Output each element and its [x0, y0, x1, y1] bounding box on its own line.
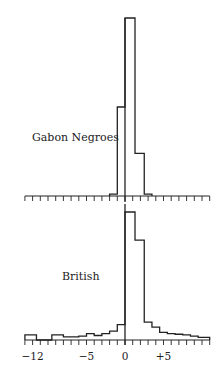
x-tick-label: 0 [122, 350, 129, 362]
x-tick-labels: −12−50+5 [22, 350, 172, 362]
x-tick-label: +5 [156, 350, 171, 362]
gabon-negroes-label: Gabon Negroes [32, 131, 119, 144]
x-tick-label: −12 [22, 350, 44, 362]
histogram-outline [110, 18, 152, 196]
histogram-chart: Gabon Negroes British −12−50+5 [0, 0, 220, 381]
x-tick-label: −5 [79, 350, 94, 362]
british-panel [25, 204, 210, 345]
gabon-negroes-panel [110, 18, 152, 202]
top-x-axis [25, 196, 210, 201]
bottom-x-axis [25, 340, 210, 345]
histogram-outline [25, 212, 210, 340]
british-label: British [62, 270, 100, 283]
